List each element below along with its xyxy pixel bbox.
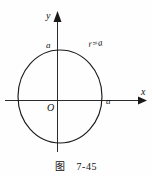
caption-number: 7-45: [77, 161, 97, 172]
x-axis-arrow-icon: [138, 97, 147, 105]
figure-drawing: [0, 0, 152, 176]
y-axis-arrow-icon: [54, 11, 62, 22]
circle-curve: [18, 50, 102, 143]
curve-equation-label: r=a: [88, 38, 103, 49]
y-axis-label: y: [46, 11, 50, 21]
origin-label: O: [47, 103, 54, 113]
y-axis-tick-label-a: a: [46, 41, 51, 50]
x-axis-tick-label-a: a: [106, 97, 111, 106]
figure-container: y x a a O r=a 图 7-45: [0, 0, 152, 176]
figure-caption: 图 7-45: [0, 158, 152, 173]
caption-prefix: 图: [55, 161, 66, 172]
x-axis-label: x: [141, 87, 145, 97]
